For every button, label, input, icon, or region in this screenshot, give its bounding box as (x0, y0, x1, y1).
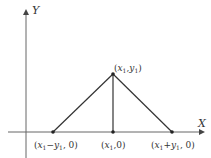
right-point-label: (x1+y1, 0) (151, 140, 195, 151)
triangle-right-side (113, 74, 172, 132)
left-point-label: (x1−y1, 0) (34, 140, 78, 151)
middle-point-label: (x1,0) (101, 140, 126, 151)
y-axis-label: Y (32, 4, 41, 17)
middle-point (111, 130, 115, 134)
triangle-diagram: Y X (x1,y1) (x1−y1, 0) (x1,0) (x1+y1, 0) (0, 0, 211, 158)
apex-label: (x1,y1) (114, 63, 142, 74)
left-point (51, 130, 55, 134)
x-axis-label: X (197, 117, 207, 130)
triangle-left-side (53, 74, 113, 132)
right-point (170, 130, 174, 134)
